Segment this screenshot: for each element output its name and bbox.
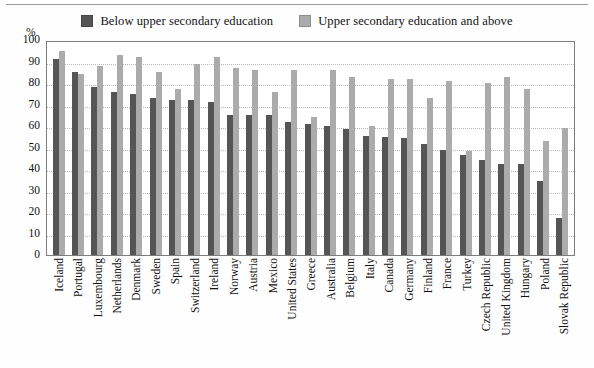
bar-group [301,42,320,255]
legend-item-below: Below upper secondary education [81,14,273,29]
x-axis-label-cell: Germany [398,258,417,366]
x-axis-tick-label: Luxembourg [92,199,104,258]
x-axis-label-cell: Belgium [340,258,359,366]
x-axis-tick-label: Australia [325,216,337,258]
x-axis-label-cell: Poland [534,258,553,366]
x-axis-tick-label: United Kingdom [500,180,512,258]
x-axis-label-cell: Switzerland [184,258,203,366]
x-axis-tick-label: Turkey [461,225,473,258]
x-axis-tick-label: United States [286,196,298,258]
x-axis-tick-label: Switzerland [189,203,201,258]
bar-group [204,42,223,255]
y-axis-tick-label: 10 [8,227,40,239]
x-axis-label-cell: Turkey [456,258,475,366]
plot-area [46,41,575,256]
bar-series-container [47,42,574,255]
x-axis-label-cell: Netherlands [106,258,125,366]
bar [175,89,181,255]
x-axis-label-cell: Mexico [262,258,281,366]
x-axis-label-cell: Czech Republic [476,258,495,366]
x-axis-label-cell: Sweden [145,258,164,366]
legend-label-upper: Upper secondary education and above [318,14,512,29]
x-axis-tick-label: Hungary [519,218,531,258]
x-axis-tick-label: Italy [364,237,376,258]
y-axis-tick-label: 60 [8,119,40,131]
bar-group [165,42,184,255]
x-axis-label-cell: Iceland [48,258,67,366]
y-axis-tick-label: 40 [8,162,40,174]
header-divider [6,4,588,5]
y-axis-tick-label: 50 [8,141,40,153]
bar-group [533,42,552,255]
y-axis-tick-label: 20 [8,205,40,217]
x-axis-tick-label: Poland [539,226,551,258]
x-axis-label-cell: Greece [301,258,320,366]
x-axis-tick-label: Portugal [72,219,84,258]
x-axis-label-cell: United Kingdom [495,258,514,366]
x-axis-label-cell: France [437,258,456,366]
x-axis-label-cell: Luxembourg [87,258,106,366]
bar-group [243,42,262,255]
x-axis-tick-labels: IcelandPortugalLuxembourgNetherlandsDenm… [46,258,575,366]
legend-swatch-below [81,15,93,27]
x-axis-label-cell: Norway [223,258,242,366]
legend-item-upper: Upper secondary education and above [299,14,512,29]
x-axis-label-cell: Denmark [126,258,145,366]
x-axis-tick-label: Czech Republic [480,185,492,258]
x-axis-tick-label: Norway [228,221,240,258]
x-axis-tick-label: Austria [247,224,259,258]
x-axis-tick-label: Iceland [53,224,65,258]
x-axis-label-cell: Spain [165,258,184,366]
y-axis-tick-label: 0 [8,248,40,260]
x-axis-label-cell: Slovak Republic [553,258,572,366]
bar-group [359,42,378,255]
x-axis-tick-label: Slovak Republic [558,182,570,258]
x-axis-tick-label: Mexico [267,223,279,258]
x-axis-tick-label: Denmark [130,215,142,258]
x-axis-tick-label: Belgium [344,218,356,258]
legend-label-below: Below upper secondary education [100,14,273,29]
x-axis-tick-label: Sweden [150,222,162,258]
y-axis-tick-label: 80 [8,76,40,88]
chart-container: Below upper secondary education Upper se… [0,0,594,368]
y-axis-tick-label: 70 [8,98,40,110]
x-axis-label-cell: Austria [242,258,261,366]
x-axis-tick-label: Ireland [208,225,220,258]
x-axis-tick-label: Netherlands [111,202,123,258]
x-axis-tick-label: Finland [422,223,434,258]
x-axis-label-cell: Hungary [515,258,534,366]
bar [369,126,375,255]
x-axis-label-cell: Italy [359,258,378,366]
y-axis-tick-label: 90 [8,55,40,67]
x-axis-label-cell: Finland [417,258,436,366]
bar-group [49,42,68,255]
x-axis-label-cell: Ireland [204,258,223,366]
x-axis-label-cell: United States [281,258,300,366]
x-axis-tick-label: Canada [383,224,395,258]
bar-group [456,42,475,255]
x-axis-label-cell: Portugal [67,258,86,366]
y-axis-tick-label: 100 [8,33,40,45]
bar-group [437,42,456,255]
x-axis-tick-label: Greece [305,225,317,258]
x-axis-label-cell: Canada [378,258,397,366]
y-axis-tick-label: 30 [8,184,40,196]
x-axis-tick-label: France [441,227,453,258]
x-axis-tick-label: Spain [169,232,181,258]
x-axis-tick-label: Germany [403,215,415,258]
chart-legend: Below upper secondary education Upper se… [0,12,594,30]
legend-swatch-upper [299,15,311,27]
x-axis-label-cell: Australia [320,258,339,366]
